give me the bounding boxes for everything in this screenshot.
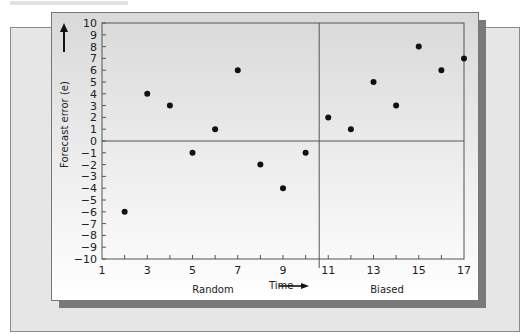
x-tick-label: 17 — [457, 264, 471, 277]
plot-axes — [102, 23, 464, 268]
data-point — [190, 150, 196, 156]
data-point — [212, 126, 218, 132]
axis-ticks: 109876543210−1−2−3−4−5−6−7−8−9−101357911… — [74, 17, 471, 277]
data-point — [122, 209, 128, 215]
data-point — [416, 44, 422, 50]
y-axis-label: Forecast error (e) — [59, 81, 70, 168]
y-axis-arrow-icon — [60, 23, 68, 52]
data-point — [348, 126, 354, 132]
data-point — [393, 103, 399, 109]
x-tick-label: 3 — [144, 264, 151, 277]
x-tick-label: 1 — [99, 264, 106, 277]
data-point — [167, 103, 173, 109]
region-label-biased: Biased — [370, 284, 403, 295]
x-tick-label: 7 — [234, 264, 241, 277]
data-points — [122, 44, 467, 215]
x-tick-label: 13 — [367, 264, 381, 277]
y-tick-label: −10 — [74, 253, 97, 266]
x-tick-label: 9 — [280, 264, 287, 277]
x-tick-label: 11 — [321, 264, 335, 277]
data-point — [438, 67, 444, 73]
x-tick-label: 15 — [412, 264, 426, 277]
data-point — [303, 150, 309, 156]
region-label-random: Random — [192, 284, 233, 295]
data-point — [461, 55, 467, 61]
data-point — [144, 91, 150, 97]
scatter-chart: 109876543210−1−2−3−4−5−6−7−8−9−101357911… — [0, 0, 528, 336]
data-point — [371, 79, 377, 85]
x-tick-label: 5 — [189, 264, 196, 277]
data-point — [280, 185, 286, 191]
data-point — [235, 67, 241, 73]
data-point — [257, 162, 263, 168]
data-point — [325, 114, 331, 120]
